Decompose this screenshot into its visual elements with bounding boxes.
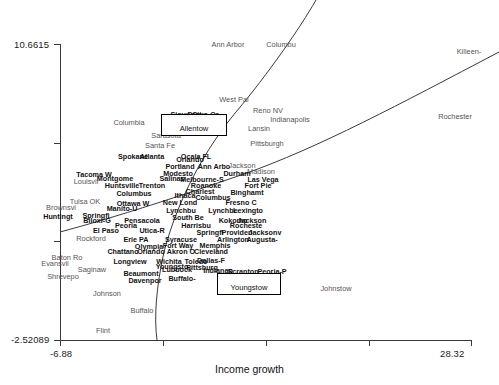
point-label: Columbia — [113, 119, 144, 127]
point-label: Lubbock — [162, 266, 192, 274]
point-label: Killeen- — [457, 48, 482, 56]
scatter-plot: 10.6615 -2.52089 -6.88 28.32 Income grow… — [0, 0, 499, 385]
point-label: Manito-U — [107, 205, 138, 213]
point-label: Augusta- — [246, 236, 277, 244]
point-label: Rockford — [76, 235, 106, 243]
point-label: Santa Fe — [145, 142, 175, 150]
point-label: Johnstow — [320, 285, 351, 293]
point-label: Columbus — [116, 190, 151, 198]
point-label: Pittsburgh — [250, 140, 283, 148]
highlight-box-label: Allentow — [180, 124, 209, 133]
point-label: Lexingto — [233, 207, 263, 215]
point-label: Buffalo- — [168, 275, 195, 283]
point-label: Louisvil — [74, 178, 99, 186]
highlight-box-label: Youngstow — [231, 283, 268, 292]
point-label: Huntingt — [43, 213, 73, 221]
point-label: West Pal — [219, 96, 248, 104]
point-label: Biloxi-G — [83, 217, 111, 225]
point-label: Saginaw — [78, 266, 106, 274]
point-label: Reno NV — [253, 107, 283, 115]
point-label: Shrevepo — [47, 273, 79, 281]
point-label: Chattano — [107, 248, 138, 256]
point-label: Evansvil — [41, 260, 69, 268]
point-label: Ann Arbor — [212, 41, 245, 49]
point-label: Longview — [113, 258, 146, 266]
point-label: Buffalo — [131, 307, 154, 315]
point-label: Indianapolis — [270, 116, 309, 124]
point-label: Binghamt — [230, 189, 263, 197]
point-label: Flint — [96, 327, 110, 335]
point-label: Davenpor — [128, 277, 161, 285]
point-label: Orlando — [137, 248, 165, 256]
point-label: Brownsvi — [46, 204, 76, 212]
point-label: Akron O — [167, 248, 195, 256]
point-label: Columbu — [266, 41, 296, 49]
point-label: Utica-R — [139, 227, 164, 235]
point-label: Lansin — [248, 125, 270, 133]
point-label: Johnson — [93, 290, 121, 298]
point-label: Rochester — [438, 113, 472, 121]
point-label: Atlanta — [140, 153, 164, 161]
point-label: Cleveland — [194, 248, 228, 256]
